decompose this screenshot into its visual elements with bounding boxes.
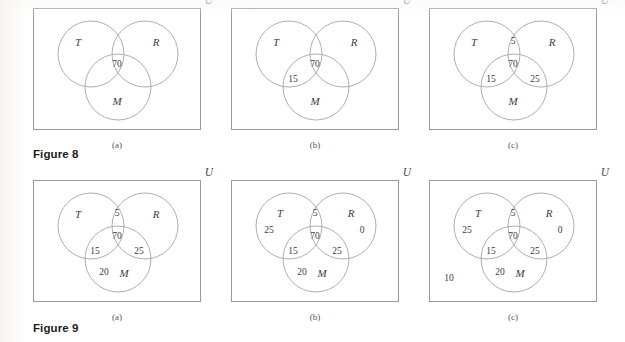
set-label-r: R: [546, 208, 553, 219]
venn-circles: [430, 181, 598, 303]
set-label-r: R: [153, 209, 160, 220]
venn-circles: [430, 9, 598, 131]
figure-9-panel-c: UTRM57015252025010(c): [429, 180, 597, 302]
venn-circles: [232, 181, 400, 303]
region-count-t-and-r-only: 5: [313, 209, 318, 219]
set-label-m: M: [112, 96, 121, 107]
region-count-t-and-m-only: 15: [486, 75, 496, 85]
panel-caption: (a): [33, 312, 201, 322]
region-count-r-only: 0: [360, 226, 365, 236]
universal-set-rectangle: UTRM7015: [231, 8, 399, 130]
venn-circles: [232, 9, 400, 131]
set-label-m: M: [508, 96, 517, 107]
figure-9-block: UTRM570152520(a)UTRM570152520250(b)UTRM5…: [0, 172, 625, 342]
panel-caption: (c): [429, 140, 597, 150]
region-count-t-and-r-only: 5: [115, 209, 120, 219]
set-label-t: T: [475, 208, 481, 219]
set-label-t: T: [75, 209, 81, 220]
figure-8-block: UTRM70(a)UTRM7015(b)UTRM5701525(c)Figure…: [0, 0, 625, 172]
universal-set-rectangle: UTRM570152520: [33, 180, 201, 302]
figure-9-caption: Figure 9: [33, 322, 79, 334]
universal-set-rectangle: UTRM5701525: [429, 8, 597, 130]
region-count-r-and-m-only: 25: [134, 247, 144, 257]
figure-9-panel-b: UTRM570152520250(b): [231, 180, 399, 302]
figure-8-panel-a: UTRM70(a): [33, 8, 201, 130]
region-count-m-only: 20: [99, 268, 109, 278]
set-label-r: R: [351, 37, 358, 48]
universal-set-label: U: [205, 0, 213, 7]
region-count-r-only: 0: [558, 226, 563, 236]
set-label-r: R: [153, 37, 160, 48]
region-count-t-r-m-intersection: 70: [112, 232, 122, 242]
region-count-t-and-r-only: 5: [511, 209, 516, 219]
figure-9-panel-a: UTRM570152520(a): [33, 180, 201, 302]
region-count-t-and-r-only: 5: [511, 37, 516, 47]
venn-circles: [34, 181, 202, 303]
universal-set-rectangle: UTRM70: [33, 8, 201, 130]
set-label-m: M: [515, 268, 524, 279]
universal-set-label: U: [205, 167, 213, 179]
set-label-t: T: [273, 37, 279, 48]
region-count-r-and-m-only: 25: [332, 247, 342, 257]
region-count-t-r-m-intersection: 70: [508, 60, 518, 70]
panel-caption: (b): [231, 312, 399, 322]
set-label-t: T: [471, 37, 477, 48]
region-count-r-and-m-only: 25: [530, 75, 540, 85]
region-count-t-r-m-intersection: 70: [310, 60, 320, 70]
region-count-t-r-m-intersection: 70: [508, 232, 518, 242]
region-count-m-only: 20: [297, 268, 307, 278]
region-count-m-only: 20: [495, 268, 505, 278]
set-label-m: M: [310, 96, 319, 107]
panel-caption: (b): [231, 140, 399, 150]
set-label-m: M: [317, 268, 326, 279]
region-count-outside-all-sets: 10: [444, 274, 454, 284]
set-label-m: M: [119, 268, 128, 279]
region-count-t-and-m-only: 15: [288, 247, 298, 257]
universal-set-rectangle: UTRM570152520250: [231, 180, 399, 302]
region-count-t-and-m-only: 15: [288, 75, 298, 85]
set-label-r: R: [348, 208, 355, 219]
universal-set-label: U: [403, 167, 411, 179]
universal-set-label: U: [403, 0, 411, 7]
panel-caption: (c): [429, 312, 597, 322]
figure-8-panel-b: UTRM7015(b): [231, 8, 399, 130]
set-label-r: R: [549, 37, 556, 48]
region-count-r-and-m-only: 25: [530, 247, 540, 257]
universal-set-label: U: [601, 167, 609, 179]
set-label-t: T: [277, 208, 283, 219]
figure-8-panel-c: UTRM5701525(c): [429, 8, 597, 130]
region-count-t-r-m-intersection: 70: [310, 232, 320, 242]
universal-set-label: U: [601, 0, 609, 7]
region-count-t-and-m-only: 15: [90, 247, 100, 257]
figure-8-caption: Figure 8: [33, 148, 79, 160]
region-count-t-r-m-intersection: 70: [112, 60, 122, 70]
venn-circles: [34, 9, 202, 131]
universal-set-rectangle: UTRM57015252025010: [429, 180, 597, 302]
region-count-t-only: 25: [462, 226, 472, 236]
set-label-t: T: [75, 37, 81, 48]
region-count-t-only: 25: [264, 226, 274, 236]
region-count-t-and-m-only: 15: [486, 247, 496, 257]
